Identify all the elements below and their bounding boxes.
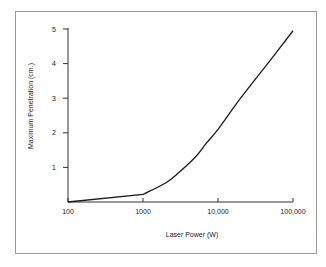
y-tick-label: 3 (52, 95, 56, 102)
x-tick-label: 10,000 (207, 208, 229, 215)
chart: 100100010,000100,00012345 Laser Power (W… (0, 0, 326, 267)
y-tick-label: 4 (52, 60, 56, 67)
y-axis-label: Maximum Penetration (cm.) (27, 63, 35, 149)
chart-frame (16, 12, 317, 254)
x-tick-label: 100 (62, 208, 74, 215)
x-axis-label: Laser Power (W) (166, 231, 219, 239)
y-tick-label: 5 (52, 26, 56, 33)
x-tick-label: 100,000 (280, 208, 305, 215)
x-tick-label: 1000 (135, 208, 151, 215)
y-tick-label: 2 (52, 129, 56, 136)
y-tick-label: 1 (52, 164, 56, 171)
